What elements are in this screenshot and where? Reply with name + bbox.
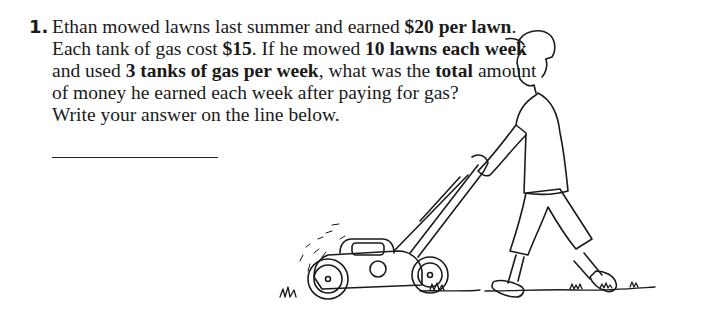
clippings-icon: [300, 224, 345, 271]
text-segment: and used: [52, 60, 126, 81]
emphasized-text: $15: [223, 38, 252, 59]
question-number: 1.: [29, 16, 48, 37]
lawn-mower-icon: [308, 155, 488, 299]
boy-icon: [478, 31, 616, 297]
boy-mowing-lawn-illustration: [270, 25, 700, 315]
answer-line[interactable]: [52, 157, 218, 158]
text-segment: Each tank of gas cost: [52, 38, 223, 59]
